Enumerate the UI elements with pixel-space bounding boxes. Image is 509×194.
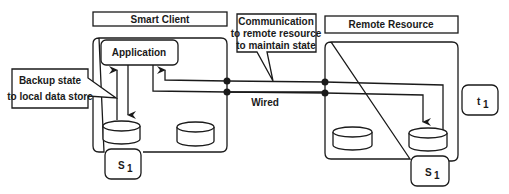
backup-callout: Backup state to local data store bbox=[7, 69, 116, 108]
svg-text:S: S bbox=[425, 167, 432, 178]
remote-data-store bbox=[409, 128, 447, 151]
wired-label: Wired bbox=[251, 97, 279, 108]
comm-arrow-to-remote-store bbox=[325, 93, 423, 122]
remote-resource-header: Remote Resource bbox=[325, 16, 458, 33]
application-node: Application bbox=[101, 40, 178, 65]
junction-dot bbox=[322, 79, 329, 86]
svg-text:1: 1 bbox=[434, 170, 440, 181]
local-data-store-secondary bbox=[177, 122, 214, 146]
smart-client-header: Smart Client bbox=[93, 12, 227, 26]
communication-callout: Communication to remote resource to main… bbox=[231, 14, 322, 81]
junction-dot bbox=[224, 78, 231, 85]
local-data-store bbox=[103, 121, 140, 144]
return-arrow-to-application bbox=[165, 70, 227, 81]
wired-line-upper-left bbox=[153, 65, 325, 92]
svg-text:to remote resource: to remote resource bbox=[231, 28, 322, 39]
junction-dot bbox=[322, 90, 329, 97]
state-box-local: S 1 bbox=[105, 149, 141, 179]
svg-text:Communication: Communication bbox=[238, 16, 314, 27]
junction-dot bbox=[224, 89, 231, 96]
remote-resource-label: Remote Resource bbox=[348, 19, 433, 30]
application-label: Application bbox=[112, 47, 166, 58]
svg-text:to maintain state: to maintain state bbox=[236, 40, 316, 51]
state-box-remote: S 1 bbox=[411, 156, 449, 186]
svg-text:1: 1 bbox=[483, 99, 489, 110]
diagram-canvas: Smart Client Remote Resource Application… bbox=[0, 0, 509, 194]
time-box: t 1 bbox=[462, 85, 498, 115]
remote-data-store-secondary bbox=[333, 127, 372, 150]
smart-client-label: Smart Client bbox=[131, 14, 191, 25]
svg-text:S: S bbox=[118, 160, 125, 171]
svg-text:to local data store: to local data store bbox=[7, 91, 93, 102]
svg-text:Backup state: Backup state bbox=[19, 75, 82, 86]
svg-text:1: 1 bbox=[127, 163, 133, 174]
